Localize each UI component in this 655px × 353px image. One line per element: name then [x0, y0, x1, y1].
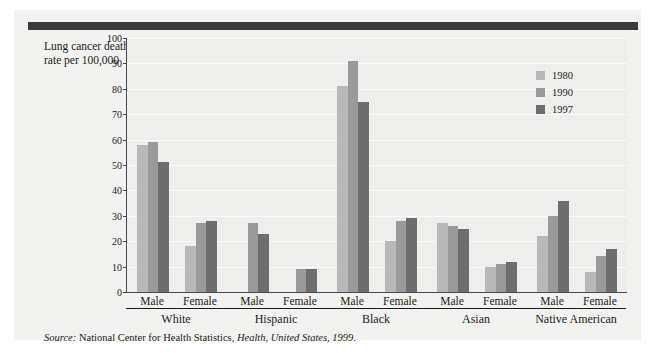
x-axis-subgroup-label: Female	[574, 295, 626, 309]
legend-item: 1980	[536, 68, 573, 82]
y-axis-tick-label: 60	[112, 134, 122, 145]
y-axis-tick-label: 50	[112, 160, 122, 171]
x-axis-group-labels: WhiteHispanicBlackAsianNative American	[126, 312, 626, 328]
y-axis-tick-label: 40	[112, 185, 122, 196]
figure-panel: Lung cancer death rate per 100,000 01020…	[14, 10, 641, 340]
bar	[448, 226, 459, 292]
x-axis-subgroup-labels: MaleFemaleMaleFemaleMaleFemaleMaleFemale…	[126, 295, 626, 309]
y-axis-tick-label: 10	[112, 261, 122, 272]
bar	[596, 256, 607, 292]
x-axis-subgroup-label: Male	[226, 295, 278, 309]
x-axis-subgroup-label: Female	[174, 295, 226, 309]
bar	[137, 145, 148, 292]
source-agency: National Center for Health Statistics,	[76, 332, 237, 343]
legend-item-label: 1980	[552, 70, 573, 81]
bar	[385, 241, 396, 292]
legend-swatch-icon	[536, 71, 545, 80]
bar	[496, 264, 507, 292]
y-axis-tick-label: 20	[112, 236, 122, 247]
source-publication: Health, United States, 1999	[237, 332, 353, 343]
bar	[548, 216, 559, 292]
y-axis-tick-mark	[123, 292, 127, 293]
x-axis-subgroup-label: Male	[426, 295, 478, 309]
y-axis-tick-label: 0	[117, 287, 122, 298]
bar	[606, 249, 617, 292]
bar	[337, 86, 348, 292]
bar	[506, 262, 517, 292]
bar	[206, 221, 217, 292]
source-end: .	[353, 332, 356, 343]
bar	[148, 142, 159, 292]
y-axis-tick-label: 70	[112, 109, 122, 120]
bar	[558, 201, 569, 292]
legend: 198019901997	[536, 68, 573, 119]
legend-item-label: 1990	[552, 87, 573, 98]
legend-item: 1997	[536, 102, 573, 116]
bar	[358, 102, 369, 293]
bar	[485, 267, 496, 292]
bar	[348, 61, 359, 292]
bar	[396, 221, 407, 292]
bar	[258, 234, 269, 292]
x-axis-subgroup-label: Female	[474, 295, 526, 309]
y-axis-tick-label: 30	[112, 210, 122, 221]
legend-swatch-icon	[536, 105, 545, 114]
legend-item: 1990	[536, 85, 573, 99]
source-label: Source:	[44, 332, 76, 343]
legend-swatch-icon	[536, 88, 545, 97]
source-note: Source: National Center for Health Stati…	[44, 332, 356, 343]
bar	[537, 236, 548, 292]
bar	[458, 229, 469, 293]
x-axis-subgroup-label: Male	[526, 295, 578, 309]
x-axis-subgroup-label: Male	[126, 295, 178, 309]
legend-item-label: 1997	[552, 104, 573, 115]
bar	[196, 223, 207, 292]
bar	[306, 269, 317, 292]
x-axis-group-label: Native American	[516, 312, 636, 327]
x-axis-subgroup-label: Female	[274, 295, 326, 309]
bar	[296, 269, 307, 292]
y-axis-tick-label: 100	[107, 33, 122, 44]
bar	[585, 272, 596, 292]
x-axis-subgroup-label: Male	[326, 295, 378, 309]
x-axis-subgroup-label: Female	[374, 295, 426, 309]
bar	[437, 223, 448, 292]
bar	[158, 162, 169, 292]
bar	[248, 223, 259, 292]
bar	[406, 218, 417, 292]
y-axis-tick-label: 90	[112, 58, 122, 69]
bar	[185, 246, 196, 292]
y-axis-tick-label: 80	[112, 83, 122, 94]
top-rule	[28, 22, 638, 30]
